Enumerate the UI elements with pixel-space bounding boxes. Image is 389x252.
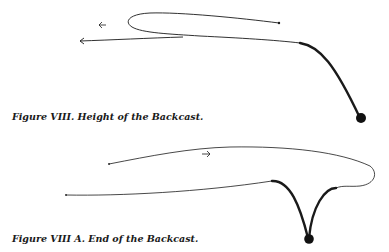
line-start-dot (108, 163, 110, 165)
figure-caption: Figure VIII A. End of the Backcast. (12, 233, 198, 244)
line-lower (66, 181, 272, 195)
figure-viii-a: Figure VIII A. End of the Backcast. (0, 126, 389, 252)
weight-icon (356, 113, 366, 123)
fly-line-thick-right (309, 188, 336, 238)
backcast-height-diagram (0, 0, 389, 126)
figure-viii: Figure VIII. Height of the Backcast. (0, 0, 389, 126)
weight-icon (304, 234, 314, 244)
line-end-dot (278, 22, 280, 24)
direction-arrow-icon (202, 151, 210, 157)
line-upper (109, 147, 375, 188)
figure-caption: Figure VIII. Height of the Backcast. (12, 111, 203, 122)
line-lower (80, 37, 183, 41)
fly-line-thick-left (272, 181, 308, 238)
line-start-dot (65, 194, 67, 196)
fly-line-thick (300, 43, 360, 118)
direction-arrow-icon (99, 22, 106, 28)
